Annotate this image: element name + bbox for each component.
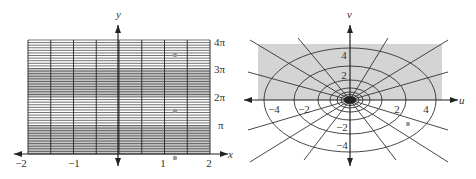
u-axis-label: u [459,94,465,106]
y-axis-up-arrow-icon [115,25,121,33]
v-tick-label: −2 [336,121,348,133]
v-tick-label: −4 [336,139,348,151]
u-axis-left-arrow-icon [244,97,252,103]
u-tick-label: −4 [268,103,280,115]
strip-grid-plot: y x −2 −1 1 2 π 2π 3π 4π [0,0,236,179]
y-tick-label: 2π [214,91,226,103]
y-axis-down-arrow-icon [115,158,121,166]
x-tick-label: 1 [160,157,166,169]
y-tick-label: π [218,119,224,131]
marked-point [173,156,177,160]
x-tick-label: −1 [68,157,80,169]
x-tick-label: −2 [15,157,27,169]
u-axis-right-arrow-icon [450,97,458,103]
radial-line [350,100,396,160]
marked-point [173,109,177,113]
u-tick-label: 2 [394,103,400,115]
y-tick-label: 4π [214,36,226,48]
x-axis-label: x [227,148,233,160]
v-axis-down-arrow-icon [347,158,353,166]
v-axis-up-arrow-icon [347,25,353,33]
left-plot-panel: y x −2 −1 1 2 π 2π 3π 4π [0,0,236,179]
x-tick-label: 2 [206,157,212,169]
v-axis-label: v [347,8,352,20]
y-axis-label: y [115,8,121,20]
v-tick-label: 2 [341,69,347,81]
right-plot-panel: v u −4 −2 2 4 4 2 −2 −4 [236,0,476,179]
v-tick-label: 4 [341,49,347,61]
u-tick-label: −2 [298,103,310,115]
y-tick-label: 3π [214,63,226,75]
marked-point [173,53,177,57]
x-axis-right-arrow-icon [220,151,228,157]
u-tick-label: 4 [423,103,429,115]
ellipse-ray-plot: v u −4 −2 2 4 4 2 −2 −4 [236,0,476,179]
origin-dense-center [344,97,356,104]
marked-point [406,122,410,126]
